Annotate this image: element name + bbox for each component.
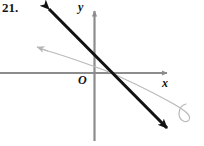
origin-label: O <box>78 74 87 86</box>
straight-line-path <box>49 9 167 128</box>
y-axis-label: y <box>78 1 83 13</box>
coordinate-graph <box>0 0 204 146</box>
figure-container: 21. y x O <box>0 0 204 146</box>
x-axis-label: x <box>162 77 168 89</box>
